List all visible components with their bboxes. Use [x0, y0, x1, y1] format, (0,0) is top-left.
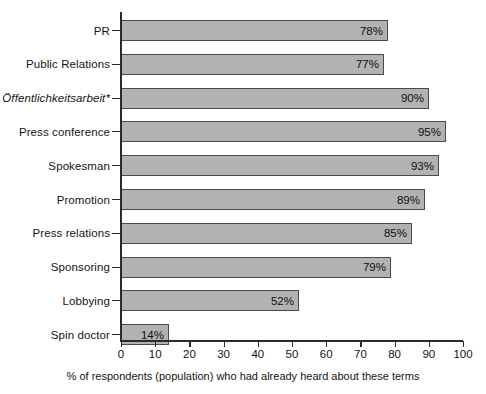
- bar: 77%: [121, 54, 384, 75]
- x-axis-tick: [360, 341, 361, 347]
- bar-value-label: 78%: [360, 24, 383, 37]
- bar-row: Sponsoring79%: [0, 257, 486, 278]
- x-axis-tick: [189, 341, 190, 347]
- bar: 90%: [121, 88, 429, 109]
- x-axis-tick-label: 40: [251, 348, 264, 361]
- bar-row: Öffentlichkeitsarbeit*90%: [0, 88, 486, 109]
- bar-value-label: 79%: [363, 261, 386, 274]
- x-axis-tick-label: 80: [388, 348, 401, 361]
- bar-row: Public Relations77%: [0, 54, 486, 75]
- bar: 78%: [121, 20, 388, 41]
- bar-value-label: 90%: [401, 92, 424, 105]
- x-axis-tick-label: 60: [320, 348, 333, 361]
- bar-value-label: 89%: [397, 193, 420, 206]
- bar-rows: PR78%Public Relations77%Öffentlichkeitsa…: [0, 0, 486, 340]
- category-label: Public Relations: [26, 58, 110, 71]
- bar: 93%: [121, 155, 439, 176]
- x-axis-tick: [292, 341, 293, 347]
- x-axis-tick-label: 50: [286, 348, 299, 361]
- category-label: Sponsoring: [51, 261, 110, 274]
- category-label: Lobbying: [63, 294, 110, 307]
- bar-value-label: 85%: [384, 227, 407, 240]
- y-axis-line: [120, 12, 122, 341]
- bar-value-label: 77%: [356, 58, 379, 71]
- x-axis-tick-label: 10: [149, 348, 162, 361]
- category-label: Öffentlichkeitsarbeit*: [2, 92, 110, 105]
- category-label: PR: [94, 24, 110, 37]
- bar: 95%: [121, 121, 446, 142]
- bar-row: Spin doctor14%: [0, 324, 486, 345]
- x-axis-caption: % of respondents (population) who had al…: [0, 370, 486, 383]
- x-axis-tick-label: 100: [453, 348, 472, 361]
- bar-row: PR78%: [0, 20, 486, 41]
- bar-row: Promotion89%: [0, 189, 486, 210]
- bar: 85%: [121, 223, 412, 244]
- bar: 89%: [121, 189, 425, 210]
- x-axis-tick: [429, 341, 430, 347]
- x-axis-tick: [155, 341, 156, 347]
- x-axis-tick-label: 0: [118, 348, 124, 361]
- bar-row: Press relations85%: [0, 223, 486, 244]
- x-axis-tick: [463, 341, 464, 347]
- bar: 14%: [121, 324, 169, 345]
- bar-value-label: 95%: [418, 125, 441, 138]
- category-label: Press relations: [32, 227, 110, 240]
- category-label: Spokesman: [48, 159, 110, 172]
- x-axis-tick-label: 20: [183, 348, 196, 361]
- bar-chart: PR78%Public Relations77%Öffentlichkeitsa…: [0, 0, 486, 394]
- bar-value-label: 93%: [411, 159, 434, 172]
- x-axis-tick: [395, 341, 396, 347]
- category-label: Promotion: [57, 193, 110, 206]
- x-axis-tick: [258, 341, 259, 347]
- category-label: Spin doctor: [51, 328, 110, 341]
- bar-row: Press conference95%: [0, 121, 486, 142]
- x-axis-tick-label: 30: [217, 348, 230, 361]
- bar-value-label: 52%: [271, 294, 294, 307]
- bar: 52%: [121, 290, 299, 311]
- x-axis-tick: [224, 341, 225, 347]
- x-axis-tick: [121, 341, 122, 347]
- x-axis-tick-label: 90: [422, 348, 435, 361]
- bar-row: Lobbying52%: [0, 290, 486, 311]
- bar: 79%: [121, 257, 391, 278]
- bar-row: Spokesman93%: [0, 155, 486, 176]
- x-axis-tick-label: 70: [354, 348, 367, 361]
- category-label: Press conference: [19, 125, 110, 138]
- x-axis-tick: [326, 341, 327, 347]
